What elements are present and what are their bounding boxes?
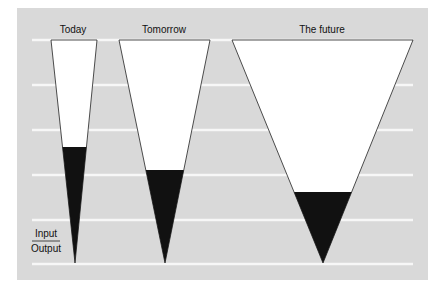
label-the-future: The future [299,24,345,35]
label-today: Today [60,24,87,35]
funnel-diagram: Today Tomorrow The future Input Output [0,0,442,289]
label-tomorrow: Tomorrow [142,24,187,35]
legend-output: Output [31,243,61,254]
legend-input: Input [35,228,57,239]
